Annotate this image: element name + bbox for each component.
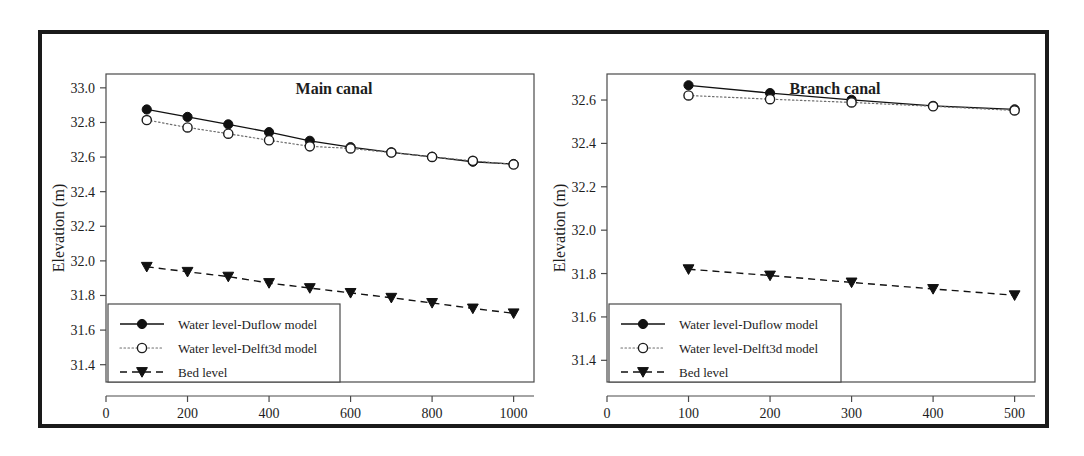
branch-canal-marker-delft3d — [928, 102, 937, 111]
main-canal-marker-bed-level — [386, 293, 397, 303]
main-canal-marker-bed-level — [264, 279, 275, 289]
branch-canal-plot-group: 31.431.631.832.032.232.432.6010020030040… — [551, 74, 1035, 424]
main-canal-plot-group: 31.431.631.832.032.232.432.632.833.00200… — [50, 74, 534, 424]
main-canal-marker-delft3d — [509, 160, 518, 169]
main-canal-legend-marker-duflow — [137, 319, 146, 328]
branch-canal-panel-title: Branch canal — [789, 80, 881, 97]
branch-canal-marker-delft3d — [684, 91, 693, 100]
branch-canal-y-tick-label: 32.4 — [572, 136, 597, 151]
main-canal-marker-duflow — [183, 112, 192, 121]
branch-canal-y-tick-label: 32.0 — [572, 223, 597, 238]
branch-canal-y-tick-label: 31.4 — [572, 353, 597, 368]
main-canal-plot: 31.431.631.832.032.232.432.632.833.00200… — [44, 34, 549, 424]
main-canal-series-line-1 — [147, 120, 514, 164]
main-canal-marker-bed-level — [182, 267, 193, 277]
branch-canal-legend-label: Bed level — [679, 365, 729, 380]
main-canal-x-tick-label: 800 — [422, 406, 443, 421]
main-canal-panel-title: Main canal — [296, 80, 373, 97]
branch-canal-x-tick-label: 100 — [678, 406, 699, 421]
branch-canal-marker-delft3d — [847, 98, 856, 107]
main-canal-marker-delft3d — [305, 142, 314, 151]
main-canal-marker-delft3d — [183, 123, 192, 132]
main-canal-y-tick-label: 31.6 — [71, 323, 96, 338]
branch-canal-y-tick-label: 31.8 — [572, 267, 597, 282]
main-canal-marker-delft3d — [224, 129, 233, 138]
main-canal-y-tick-label: 31.4 — [71, 358, 96, 373]
branch-canal-y-axis-title: Elevation (m) — [551, 184, 569, 272]
branch-canal-y-tick-label: 31.6 — [572, 310, 597, 325]
branch-canal-y-tick-label: 32.6 — [572, 93, 597, 108]
main-canal-marker-duflow — [142, 105, 151, 114]
main-canal-y-tick-label: 32.2 — [71, 219, 96, 234]
main-canal-legend-marker-delft3d — [137, 343, 146, 352]
branch-canal-marker-bed-level — [846, 278, 857, 288]
branch-canal-marker-delft3d — [1010, 106, 1019, 115]
main-canal-x-tick-label: 0 — [103, 406, 110, 421]
branch-canal-x-tick-label: 200 — [760, 406, 781, 421]
main-canal-marker-delft3d — [427, 152, 436, 161]
branch-canal-x-tick-label: 500 — [1004, 406, 1025, 421]
main-canal-x-tick-label: 400 — [259, 406, 280, 421]
main-canal-y-tick-label: 32.4 — [71, 185, 96, 200]
main-canal-y-tick-label: 32.8 — [71, 115, 96, 130]
main-canal-series-line-0 — [147, 109, 514, 164]
main-canal-y-tick-label: 31.8 — [71, 288, 96, 303]
branch-canal-plot: 31.431.631.832.032.232.432.6010020030040… — [545, 34, 1050, 424]
main-canal-marker-bed-level — [508, 309, 519, 319]
main-canal-marker-delft3d — [387, 148, 396, 157]
branch-canal-legend-label: Water level-Delft3d model — [679, 341, 818, 356]
branch-canal-marker-delft3d — [765, 95, 774, 104]
main-canal-x-tick-label: 200 — [177, 406, 198, 421]
branch-canal-x-tick-label: 400 — [923, 406, 944, 421]
branch-canal-x-tick-label: 300 — [841, 406, 862, 421]
main-canal-y-tick-label: 32.6 — [71, 150, 96, 165]
chart-panel-branch-canal: 31.431.631.832.032.232.432.6010020030040… — [545, 34, 1050, 424]
main-canal-y-tick-label: 33.0 — [71, 81, 96, 96]
branch-canal-marker-duflow — [684, 81, 693, 90]
main-canal-legend-label: Water level-Duflow model — [178, 317, 317, 332]
branch-canal-marker-bed-level — [1009, 291, 1020, 301]
branch-canal-legend-label: Water level-Duflow model — [679, 317, 818, 332]
main-canal-marker-delft3d — [264, 136, 273, 145]
branch-canal-legend-marker-duflow — [638, 319, 647, 328]
main-canal-legend-label: Water level-Delft3d model — [178, 341, 317, 356]
main-canal-y-tick-label: 32.0 — [71, 254, 96, 269]
main-canal-marker-duflow — [224, 120, 233, 129]
main-canal-marker-delft3d — [468, 156, 477, 165]
chart-panel-main-canal: 31.431.631.832.032.232.432.632.833.00200… — [44, 34, 549, 424]
main-canal-legend-label: Bed level — [178, 365, 228, 380]
main-canal-marker-bed-level — [467, 304, 478, 314]
branch-canal-x-tick-label: 0 — [604, 406, 611, 421]
main-canal-x-tick-label: 600 — [340, 406, 361, 421]
main-canal-x-tick-label: 1000 — [500, 406, 528, 421]
main-canal-y-axis-title: Elevation (m) — [50, 184, 68, 272]
main-canal-marker-delft3d — [346, 144, 355, 153]
figure-frame: 31.431.631.832.032.232.432.632.833.00200… — [38, 30, 1049, 428]
branch-canal-y-tick-label: 32.2 — [572, 180, 597, 195]
branch-canal-legend-marker-delft3d — [638, 343, 647, 352]
main-canal-marker-delft3d — [142, 115, 151, 124]
